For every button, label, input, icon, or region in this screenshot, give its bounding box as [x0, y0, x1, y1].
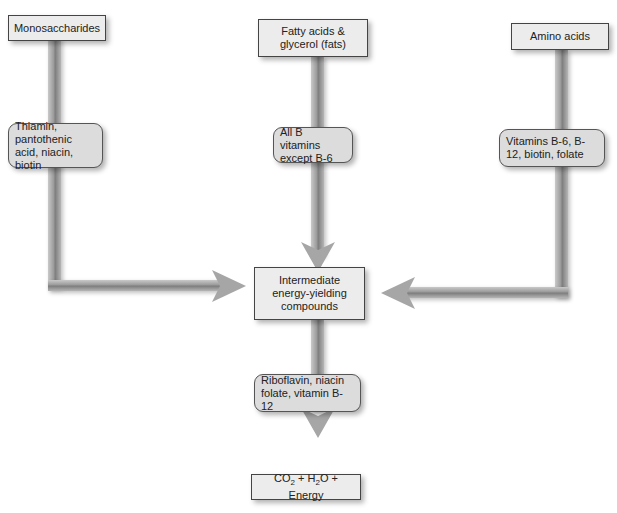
vitamins-fats: All B vitamins except B-6 [273, 127, 353, 163]
source-monosaccharides: Monosaccharides [8, 15, 106, 41]
pipe-monosaccharides-horizontal [48, 280, 223, 291]
arrow-down-icon [301, 408, 335, 438]
vitamin-label: Vitamins B-6, B-12, biotin, folate [506, 135, 598, 161]
pipe-amino-horizontal [403, 287, 568, 298]
source-amino-acids: Amino acids [511, 23, 609, 50]
source-fats: Fatty acids & glycerol (fats) [258, 19, 368, 57]
source-label: Amino acids [530, 30, 590, 43]
arrow-right-icon [212, 270, 246, 302]
intermediate-label: Intermediate energy-yielding compounds [259, 274, 360, 313]
source-label: Fatty acids & glycerol (fats) [263, 25, 363, 51]
vitamins-final: Riboflavin, niacin folate, vitamin B-12 [254, 374, 361, 412]
vitamins-amino: Vitamins B-6, B-12, biotin, folate [499, 129, 605, 167]
vitamin-label: All B vitamins except B-6 [280, 126, 346, 165]
vitamin-label: Riboflavin, niacin folate, vitamin B-12 [261, 374, 354, 413]
source-label: Monosaccharides [14, 22, 100, 35]
intermediate-compounds: Intermediate energy-yielding compounds [254, 267, 365, 320]
products-label: CO2 + H2O + Energy [256, 472, 356, 502]
vitamins-monosaccharides: Thiamin, pantothenic acid, niacin, bioti… [8, 123, 103, 168]
products-box: CO2 + H2O + Energy [251, 474, 361, 500]
arrow-left-icon [381, 277, 415, 309]
vitamin-label: Thiamin, pantothenic acid, niacin, bioti… [15, 120, 96, 172]
pipe-amino [555, 50, 568, 297]
